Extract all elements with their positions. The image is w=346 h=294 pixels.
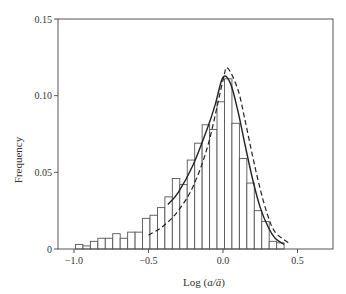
- y-tick-label: 0: [47, 244, 52, 255]
- histogram-bar: [120, 238, 127, 249]
- histogram-bar: [157, 208, 164, 249]
- y-tick-label: 0.05: [35, 167, 53, 178]
- histogram-bar: [232, 123, 239, 249]
- histogram-bar: [75, 244, 82, 249]
- histogram-bar: [269, 241, 276, 249]
- y-tick-label: 0.10: [35, 90, 53, 101]
- histogram-bar: [98, 238, 105, 249]
- histogram-bar: [247, 183, 254, 249]
- histogram-bar: [217, 102, 224, 249]
- x-tick-label: −1.0: [65, 255, 83, 266]
- y-axis-label: Frequency: [12, 136, 24, 183]
- histogram-bar: [254, 211, 261, 249]
- histogram-bar: [128, 232, 135, 249]
- histogram-bar: [239, 159, 246, 249]
- histogram-bar: [105, 238, 112, 249]
- histogram-bar: [180, 185, 187, 249]
- x-axis-label: Log (a/ā): [183, 276, 225, 289]
- x-tick-label: 0.5: [291, 255, 304, 266]
- histogram-bar: [224, 79, 231, 249]
- histogram-bar: [90, 241, 97, 249]
- histogram-bar: [150, 215, 157, 249]
- x-tick-label: 0.0: [217, 255, 230, 266]
- histogram-bars: [75, 79, 284, 249]
- y-tick-label: 0.15: [35, 14, 53, 25]
- x-tick-label: −0.5: [139, 255, 157, 266]
- histogram-chart: 00.050.100.15−1.0−0.50.00.5 Frequency Lo…: [0, 0, 346, 294]
- histogram-bar: [135, 232, 142, 249]
- histogram-bar: [210, 129, 217, 249]
- histogram-bar: [143, 218, 150, 249]
- histogram-bar: [113, 234, 120, 249]
